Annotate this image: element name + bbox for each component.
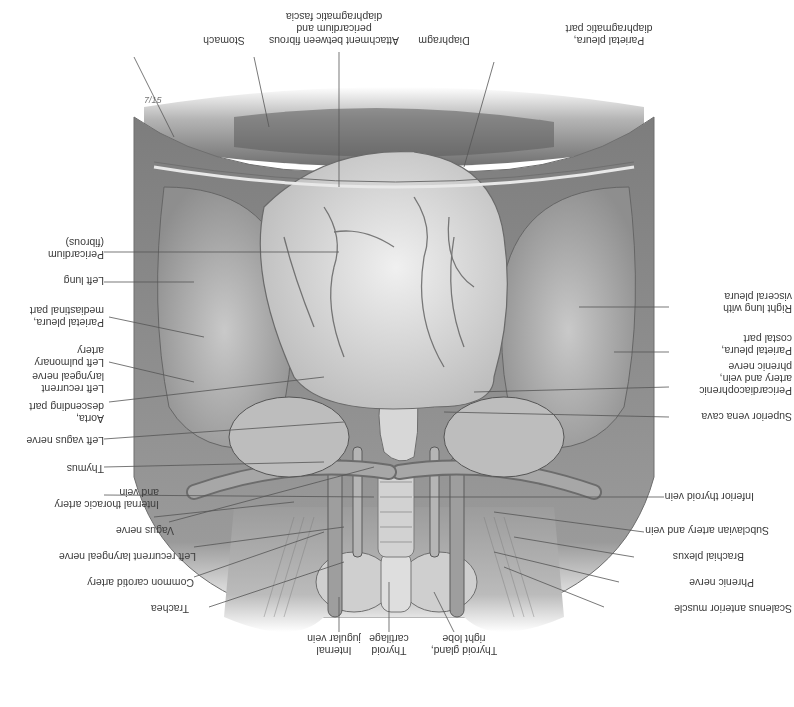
label-trachea: Trachea <box>89 603 189 615</box>
label-pericardium-fibrous: Pericardium (fibrous) <box>0 237 104 261</box>
label-phrenic-nerve: Phrenic nerve <box>624 577 754 589</box>
label-left-vagus-nerve: Left vagus nerve <box>0 435 104 447</box>
label-parietal-pleura-mediastinal: Parietal pleura, mediastinal part <box>0 305 104 329</box>
label-thyroid-gland-right-lobe: Thyroid gland, right lobe <box>419 633 509 657</box>
label-parietal-pleura-costal: Parietal pleura, costal part <box>662 333 792 357</box>
label-left-lung: Left lung <box>0 275 104 287</box>
label-vagus-nerve: Vagus nerve <box>14 525 174 537</box>
label-stomach: Stomach <box>174 35 274 47</box>
label-left-pulmonary-artery: Left pulmonary artery <box>0 345 104 369</box>
label-aorta-descending: Aorta, descending part <box>0 401 104 425</box>
label-left-recurrent-laryngeal-nerve-1: Left recurrent laryngeal nerve <box>0 371 104 395</box>
label-parietal-pleura-diaphragmatic: Parietal pleura, diaphragmatic part <box>544 23 674 47</box>
anatomy-figure: 7/15 <box>0 0 794 707</box>
label-internal-jugular-vein: Internal jugular vein <box>294 633 374 657</box>
svg-text:7/15: 7/15 <box>144 95 163 105</box>
label-left-recurrent-laryngeal-nerve-2: Left recurrent laryngeal nerve <box>6 551 196 563</box>
label-right-lung: Right lung with visceral pleura <box>662 291 792 315</box>
label-inferior-thyroid-vein: Inferior thyroid vein <box>624 491 754 503</box>
label-scalenus-anterior: Scalenus anterior muscle <box>612 603 792 615</box>
label-attachment-fibrous-pericardium: Attachment between fibrous pericardium a… <box>249 11 419 47</box>
label-subclavian-artery-vein: Subclavian artery and vein <box>609 525 769 537</box>
label-common-carotid-artery: Common carotid artery <box>14 577 194 589</box>
label-brachial-plexus: Brachial plexus <box>614 551 744 563</box>
label-pericardiacophrenic: Pericardiacophrenic artery and vein, phr… <box>662 361 792 397</box>
label-superior-vena-cava: Superior vena cava <box>662 411 792 423</box>
label-internal-thoracic-artery-vein: Internal thoracic artery and vein <box>0 487 159 511</box>
label-thymus: Thymus <box>4 463 104 475</box>
